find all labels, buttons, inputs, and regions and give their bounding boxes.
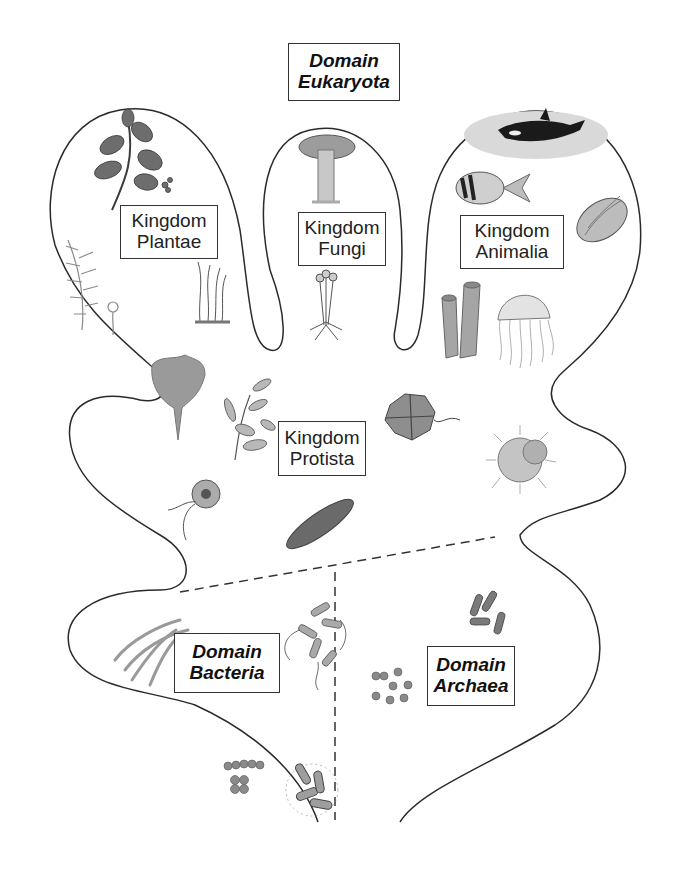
jellyfish-icon: [498, 295, 553, 368]
kingdom-fungi-line2: Fungi: [318, 239, 366, 260]
archaea-rods-icon: [469, 590, 505, 635]
tropical-fish-icon: [456, 172, 530, 204]
tree-of-life-diagram: Domain Eukaryota Kingdom Plantae Kingdom…: [0, 0, 678, 872]
tube-sponge-icon: [442, 282, 480, 358]
kingdom-plantae-line2: Plantae: [137, 232, 201, 253]
bread-mold-icon: [310, 270, 342, 340]
cocci-cluster-icon: [231, 776, 249, 794]
domain-archaea-line1: Domain: [436, 655, 506, 676]
kingdom-animalia-line1: Kingdom: [475, 221, 550, 242]
clam-icon: [569, 189, 636, 251]
domain-bacteria-line1: Domain: [192, 642, 262, 663]
radiolarian-icon: [486, 425, 556, 494]
domain-eukaryota-line2: Eukaryota: [298, 72, 390, 93]
flagellate-icon: [168, 480, 220, 540]
kingdom-animalia-label: Kingdom Animalia: [460, 215, 564, 269]
cocci-chain-icon: [224, 760, 264, 770]
paramecium-icon: [281, 492, 359, 556]
kingdom-fungi-line1: Kingdom: [305, 218, 380, 239]
moss-icon: [195, 262, 230, 322]
mushroom-icon: [299, 135, 355, 202]
dinoflagellate-icon: [385, 394, 460, 440]
domain-bacteria-line2: Bacteria: [190, 663, 265, 684]
eukaryota-boundary-dashed: [180, 537, 495, 592]
kingdom-protista-label: Kingdom Protista: [278, 421, 366, 476]
kingdom-fungi-label: Kingdom Fungi: [298, 212, 386, 266]
kingdom-protista-line1: Kingdom: [285, 428, 360, 449]
orca-icon: [464, 108, 608, 159]
kingdom-animalia-line2: Animalia: [476, 242, 549, 263]
archaea-cocci-icon: [372, 668, 412, 704]
flagellated-rods-icon: [285, 601, 346, 690]
kingdom-plantae-label: Kingdom Plantae: [120, 205, 218, 259]
domain-eukaryota-line1: Domain: [309, 51, 379, 72]
brown-alga-icon: [222, 377, 277, 460]
domain-archaea-label: Domain Archaea: [427, 646, 515, 706]
domain-eukaryota-label: Domain Eukaryota: [288, 43, 400, 101]
leafy-branch-icon: [92, 109, 172, 210]
kingdom-protista-line2: Protista: [290, 449, 354, 470]
fern-frond-icon: [66, 240, 118, 335]
domain-bacteria-label: Domain Bacteria: [174, 633, 280, 693]
kingdom-plantae-line1: Kingdom: [132, 211, 207, 232]
domain-archaea-line2: Archaea: [434, 676, 509, 697]
